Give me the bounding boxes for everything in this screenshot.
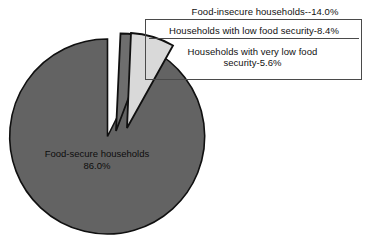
label-very-low-food-security: Households with very low food security-5… xyxy=(160,46,345,68)
label-food-insecure-households: Food-insecure households--14.0% xyxy=(160,6,370,17)
label-very-low-line1: Households with very low food xyxy=(188,46,318,57)
pie-chart: Food-insecure households--14.0% Househol… xyxy=(0,0,372,243)
callout-rule-insecure xyxy=(145,19,362,20)
label-very-low-line2: security-5.6% xyxy=(223,57,281,68)
label-food-secure-households: Food-secure households 86.0% xyxy=(22,148,172,172)
label-food-secure-line2: 86.0% xyxy=(84,160,111,171)
label-food-secure-line1: Food-secure households xyxy=(45,148,150,159)
callout-rule-low xyxy=(149,38,359,39)
label-low-food-security: Households with low food security-8.4% xyxy=(150,25,358,36)
